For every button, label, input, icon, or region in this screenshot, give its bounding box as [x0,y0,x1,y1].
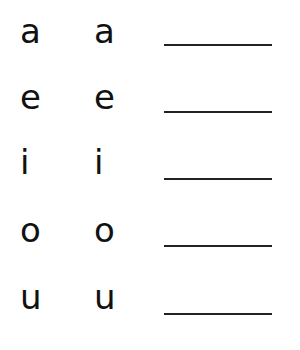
answer-blank-line[interactable] [164,313,272,315]
row-u: u u [0,280,300,320]
letter-left: e [20,80,41,114]
letter-right: i [94,145,103,179]
letter-left: i [20,145,29,179]
letter-left: u [20,280,42,314]
row-e: e e [0,80,300,120]
answer-blank-line[interactable] [164,178,272,180]
row-o: o o [0,213,300,253]
answer-blank-line[interactable] [164,44,272,46]
row-i: i i [0,145,300,185]
answer-blank-line[interactable] [164,111,272,113]
answer-blank-line[interactable] [164,245,272,247]
letter-right: a [94,14,115,48]
letter-right: e [94,80,115,114]
letter-right: o [94,213,115,247]
row-a: a a [0,14,300,54]
letter-right: u [94,280,116,314]
letter-left: o [20,213,41,247]
letter-left: a [20,14,41,48]
